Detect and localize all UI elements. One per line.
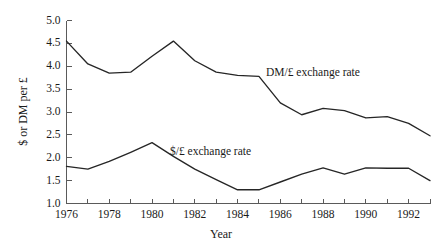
y-axis-tick-marks (67, 21, 72, 204)
x-tick-label: 1992 (384, 209, 434, 221)
data-series-lines (67, 41, 431, 190)
exchange-rate-line-chart: 1.01.52.02.53.03.54.04.55.0 197619781980… (0, 0, 442, 248)
y-tick-label: 5.0 (21, 15, 61, 27)
y-axis-title: $ or DM per £ (16, 37, 31, 187)
chart-axes (67, 21, 431, 204)
x-axis-title: Year (0, 227, 442, 242)
series-label-dm-per-pound: DM/£ exchange rate (266, 66, 360, 78)
series-label-usd-per-pound: $/£ exchange rate (170, 145, 251, 157)
x-axis-tick-marks (67, 199, 431, 204)
series-line-0 (67, 41, 431, 136)
